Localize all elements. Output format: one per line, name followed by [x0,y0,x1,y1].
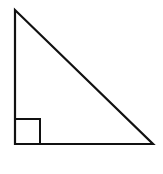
background [0,0,163,174]
right-triangle-diagram [0,0,163,174]
